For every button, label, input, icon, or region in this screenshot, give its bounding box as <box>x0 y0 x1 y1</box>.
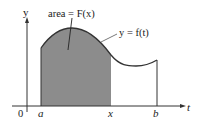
area-label: area = F(x) <box>48 8 95 20</box>
x-axis-arrow-icon <box>180 104 186 108</box>
curve-label: y = f(t) <box>119 27 149 39</box>
tick-label-b: b <box>153 107 159 119</box>
x-axis-label: t <box>187 101 191 113</box>
tick-label-a: a <box>38 107 44 119</box>
area-label-text: area = F(x) <box>48 8 95 20</box>
tick-label-x: x <box>107 107 113 119</box>
origin-label: 0 <box>18 108 23 119</box>
curve-label-pointer <box>101 34 117 42</box>
area-function-diagram: y area = F(x) y = f(t) t 0 a x b <box>0 0 201 123</box>
shaded-area-region <box>41 28 111 106</box>
y-axis-label: y <box>23 6 29 18</box>
